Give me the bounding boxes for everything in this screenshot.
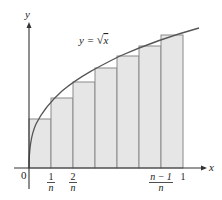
tick-denominator: n xyxy=(71,182,76,193)
rectangle-6 xyxy=(139,46,161,168)
y-axis-arrow-icon xyxy=(27,22,32,28)
tick-label-1: 1 xyxy=(181,171,186,182)
tick-label-2-over-n: 2 n xyxy=(69,171,77,193)
rectangle-7 xyxy=(161,35,183,168)
tick-numerator: 1 xyxy=(49,171,54,182)
rectangle-3 xyxy=(73,82,95,168)
tick-label-1-over-n: 1 n xyxy=(47,171,55,193)
tick-numerator: n − 1 xyxy=(150,171,172,182)
tick-denominator: n xyxy=(159,182,164,193)
curve-label-prefix: y = xyxy=(78,34,97,46)
rectangle-2 xyxy=(51,98,73,168)
origin-label: 0 xyxy=(21,169,27,181)
rectangle-4 xyxy=(95,68,117,168)
tick-numerator: 2 xyxy=(71,171,76,182)
rectangle-1 xyxy=(29,119,51,168)
tick-denominator: n xyxy=(49,182,54,193)
curve-label: y = √x xyxy=(78,33,108,47)
x-axis-label: x xyxy=(208,161,214,173)
x-axis-arrow-icon xyxy=(201,166,207,171)
tick-label-n-minus-1-over-n: n − 1 n xyxy=(149,171,173,193)
y-axis-label: y xyxy=(24,8,30,20)
tick-one: 1 xyxy=(181,171,186,182)
riemann-sum-diagram: y x 0 y = √x 1 n 2 n n − 1 n 1 xyxy=(0,0,222,200)
curve-label-arg: x xyxy=(102,34,108,46)
rectangle-5 xyxy=(117,56,139,168)
